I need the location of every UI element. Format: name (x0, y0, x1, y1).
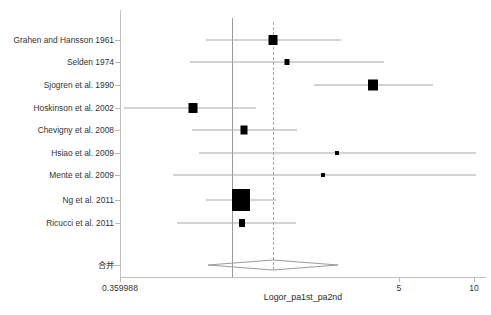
study-label: Grahen and Hansson 1961 (13, 36, 114, 44)
y-axis-tick (115, 175, 120, 176)
y-axis-tick (115, 62, 120, 63)
y-axis-tick (115, 153, 120, 154)
y-axis-tick (115, 200, 120, 201)
study-label: Ricucci et al. 2011 (46, 219, 114, 227)
effect-size-marker (335, 151, 339, 155)
x-axis-tick (120, 277, 121, 282)
study-label: Hsiao et al. 2009 (51, 149, 114, 157)
study-label: Ng et al. 2011 (62, 196, 114, 204)
x-axis-tick-label: 0.359988 (102, 283, 138, 293)
study-label: Mente et al. 2009 (49, 171, 114, 179)
forest-plot: Grahen and Hansson 1961Selden 1974Sjogre… (0, 0, 491, 315)
y-axis-tick (115, 130, 120, 131)
y-axis-tick (115, 223, 120, 224)
study-label: Hoskinson et al. 2002 (33, 104, 114, 112)
null-line (232, 18, 233, 277)
effect-size-marker (189, 103, 198, 113)
x-axis-tick-label: 5 (397, 283, 402, 293)
x-axis-title: Logor_pa1st_pa2nd (264, 292, 342, 302)
effect-size-marker (285, 59, 290, 65)
x-axis-tick (399, 277, 400, 282)
pooled-effect-diamond (208, 258, 338, 276)
y-axis-tick (115, 40, 120, 41)
effect-size-marker (321, 173, 325, 177)
y-axis-tick (115, 85, 120, 86)
confidence-interval-line (177, 223, 296, 224)
effect-size-marker (239, 219, 245, 227)
x-axis-tick (474, 277, 475, 282)
x-axis-tick-label: 10 (469, 283, 479, 293)
pooled-line (273, 22, 274, 270)
x-axis-line (120, 277, 486, 278)
pooled-label: 合并 (98, 261, 114, 269)
effect-size-marker (241, 126, 248, 135)
study-label: Selden 1974 (67, 58, 114, 66)
effect-size-marker (232, 189, 250, 211)
y-axis-tick (115, 108, 120, 109)
effect-size-marker (368, 80, 378, 91)
y-axis-tick (115, 265, 120, 266)
effect-size-marker (269, 35, 278, 45)
study-label: Sjogren et al. 1990 (44, 81, 114, 89)
y-axis-line (120, 10, 121, 278)
study-label: Chevigny et al. 2008 (38, 126, 114, 134)
